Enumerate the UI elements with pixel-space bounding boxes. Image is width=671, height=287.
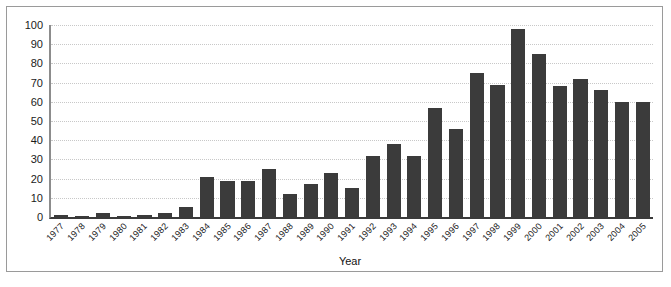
bar [428, 108, 442, 217]
bar [594, 90, 608, 217]
bar-slot [51, 25, 72, 217]
bar [179, 207, 193, 217]
bar-slot [425, 25, 446, 217]
x-axis-slot: 1979 [91, 219, 112, 257]
bar [220, 181, 234, 217]
y-axis-tick-labels: 0102030405060708090100 [15, 7, 43, 273]
bar [387, 144, 401, 217]
bar-slot [72, 25, 93, 217]
bar [158, 213, 172, 217]
bar-slot [134, 25, 155, 217]
y-axis-tick-label: 50 [15, 116, 43, 127]
bar-slot [279, 25, 300, 217]
x-axis-slot: 1982 [153, 219, 174, 257]
bar [75, 216, 89, 217]
y-axis-tick-label: 70 [15, 77, 43, 88]
x-axis-slot: 1986 [236, 219, 257, 257]
y-axis-tick-label: 0 [15, 212, 43, 223]
bar [532, 54, 546, 217]
bar-series [51, 25, 653, 217]
y-axis-tick-label: 100 [15, 20, 43, 31]
bar-slot [487, 25, 508, 217]
bar-slot [321, 25, 342, 217]
bar [366, 156, 380, 217]
bar-slot [508, 25, 529, 217]
bar [262, 169, 276, 217]
x-axis-slot: 1987 [257, 219, 278, 257]
x-axis-slot: 2004 [610, 219, 631, 257]
chart-plot-wrapper: 0102030405060708090100 19771978197919801… [7, 7, 664, 273]
x-axis-slot: 1995 [423, 219, 444, 257]
bar [96, 213, 110, 217]
bar-slot [259, 25, 280, 217]
bar-slot [612, 25, 633, 217]
bar [304, 184, 318, 217]
y-axis-tick-label: 60 [15, 96, 43, 107]
x-axis-slot: 1999 [506, 219, 527, 257]
x-axis-slot: 2001 [547, 219, 568, 257]
x-axis-slot: 1992 [360, 219, 381, 257]
x-axis-slot: 1983 [174, 219, 195, 257]
bar-slot [632, 25, 653, 217]
bar-slot [300, 25, 321, 217]
bar-slot [570, 25, 591, 217]
bar [117, 216, 131, 217]
bar [573, 79, 587, 217]
chart-frame: 0102030405060708090100 19771978197919801… [6, 6, 663, 272]
bar-slot [383, 25, 404, 217]
bar-slot [113, 25, 134, 217]
bar-slot [342, 25, 363, 217]
y-axis-tick-label: 90 [15, 39, 43, 50]
bar [324, 173, 338, 217]
bar-slot [93, 25, 114, 217]
bar-slot [446, 25, 467, 217]
bar [490, 85, 504, 217]
bar [553, 86, 567, 217]
x-axis-slot: 1978 [70, 219, 91, 257]
bar-slot [404, 25, 425, 217]
bar-slot [362, 25, 383, 217]
bar-slot [196, 25, 217, 217]
x-axis-slot: 2005 [630, 219, 651, 257]
bar [449, 129, 463, 217]
y-axis-tick-label: 40 [15, 135, 43, 146]
x-axis-slot: 1991 [340, 219, 361, 257]
bar [615, 102, 629, 217]
bar [200, 177, 214, 217]
x-axis-tick-labels: 1977197819791980198119821983198419851986… [49, 219, 651, 257]
x-axis-slot: 1988 [277, 219, 298, 257]
bar [407, 156, 421, 217]
bar-slot [238, 25, 259, 217]
y-axis-tick-label: 30 [15, 154, 43, 165]
bar [54, 215, 68, 217]
x-axis-slot: 2000 [527, 219, 548, 257]
bar-slot [155, 25, 176, 217]
x-axis-slot: 1984 [194, 219, 215, 257]
y-axis-tick-label: 10 [15, 192, 43, 203]
bar-slot [176, 25, 197, 217]
y-axis-tick-label: 80 [15, 58, 43, 69]
bar [137, 215, 151, 217]
plot-area [49, 25, 653, 219]
bar-slot [549, 25, 570, 217]
bar [511, 29, 525, 217]
bar-slot [529, 25, 550, 217]
bar-slot [466, 25, 487, 217]
x-axis-slot: 1996 [444, 219, 465, 257]
bar [470, 73, 484, 217]
bar [636, 102, 650, 217]
bar-slot [591, 25, 612, 217]
x-axis-tick-label: 1977 [45, 221, 67, 243]
bar [241, 181, 255, 217]
bar [283, 194, 297, 217]
y-axis-tick-label: 20 [15, 173, 43, 184]
bar-slot [217, 25, 238, 217]
x-axis-title: Year [49, 255, 651, 267]
bar [345, 188, 359, 217]
